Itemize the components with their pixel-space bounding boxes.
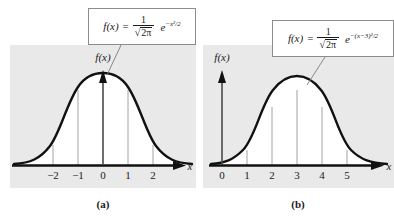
formula-a-exponent: −x²/2 <box>165 20 180 28</box>
formula-b-fraction: 1 √2π <box>317 27 339 51</box>
x-tick-a-1: −1 <box>72 169 84 181</box>
caption-b: (b) <box>268 198 328 210</box>
x-tick-b-4: 4 <box>319 169 325 181</box>
formula-b-numerator: 1 <box>323 27 334 38</box>
panel-a-plot: −2 −1 0 1 2 x f(x) <box>10 45 196 188</box>
x-tick-a-3: 1 <box>125 169 131 181</box>
x-axis-label-a: x <box>187 160 193 172</box>
panel-b-plot: 0 1 2 3 4 5 x f(x) <box>203 45 394 188</box>
x-tick-b-3: 3 <box>294 169 300 181</box>
y-axis-b <box>218 70 226 165</box>
x-tick-labels-a: −2 −1 0 1 2 <box>47 169 156 181</box>
formula-a-radicand: 2π <box>140 27 152 39</box>
y-axis-label-b: f(x) <box>214 51 230 64</box>
formula-a-equals: = <box>123 21 129 32</box>
formula-box-a: f(x) = 1 √2π e−x²/2 <box>88 8 196 45</box>
formula-box-b: f(x) = 1 √2π e−(x−3)²/2 <box>272 20 394 57</box>
formula-b: f(x) = 1 √2π e−(x−3)²/2 <box>288 27 378 51</box>
x-tick-b-1: 1 <box>244 169 250 181</box>
caption-a: (a) <box>73 198 133 210</box>
y-axis-label-a: f(x) <box>95 51 111 64</box>
panel-b-background: 0 1 2 3 4 5 x f(x) <box>203 45 394 188</box>
curve-b-fill <box>211 76 387 166</box>
formula-b-lhs: f(x) <box>288 33 303 44</box>
formula-a: f(x) = 1 √2π e−x²/2 <box>103 15 180 39</box>
x-tick-b-5: 5 <box>344 169 350 181</box>
x-axis-label-b: x <box>386 160 392 172</box>
formula-b-exponential: e−(x−3)²/2 <box>345 33 378 45</box>
formula-b-radicand: 2π <box>325 39 337 51</box>
formula-b-exponent: −(x−3)²/2 <box>350 32 378 40</box>
formula-a-fraction: 1 √2π <box>133 15 155 39</box>
x-tick-labels-b: 0 1 2 3 4 5 <box>219 169 350 181</box>
panel-a-background: −2 −1 0 1 2 x f(x) <box>10 45 196 188</box>
x-tick-a-2: 0 <box>100 169 106 181</box>
formula-a-exponential: e−x²/2 <box>160 21 180 33</box>
leader-line-b <box>307 57 325 85</box>
x-tick-a-0: −2 <box>47 169 59 181</box>
x-tick-b-2: 2 <box>269 169 275 181</box>
formula-a-denominator: √2π <box>133 26 155 39</box>
normal-distribution-figure: −2 −1 0 1 2 x f(x) f(x) = 1 √2π <box>0 0 394 221</box>
formula-a-lhs: f(x) <box>103 21 118 32</box>
formula-b-denominator: √2π <box>317 38 339 51</box>
x-tick-a-4: 2 <box>150 169 156 181</box>
x-tick-b-0: 0 <box>219 169 225 181</box>
formula-b-equals: = <box>307 33 313 44</box>
formula-a-numerator: 1 <box>138 15 149 26</box>
